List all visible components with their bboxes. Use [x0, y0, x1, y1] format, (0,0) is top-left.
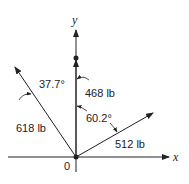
- angle-arc-37-7: [77, 77, 89, 80]
- y-axis-label: y: [71, 13, 78, 27]
- force-618-label: 618 lb: [16, 122, 46, 134]
- angle-label-37-7: 37.7°: [39, 78, 65, 90]
- origin-label: 0: [64, 160, 70, 172]
- force-512-label: 512 lb: [115, 138, 145, 150]
- angle-arc-37-7-left: [19, 94, 31, 100]
- x-axis-label: x: [172, 150, 179, 164]
- force-468-label: 468 lb: [85, 87, 115, 99]
- angle-arc-60-2-bottom: [110, 123, 117, 132]
- angle-arc-60-2-top: [77, 106, 87, 111]
- force-468-point: [74, 56, 79, 61]
- force-diagram: x y 0 468 lb 618 lb 37.7° 512 lb 60.2°: [0, 0, 189, 184]
- angle-label-60-2: 60.2°: [86, 112, 112, 124]
